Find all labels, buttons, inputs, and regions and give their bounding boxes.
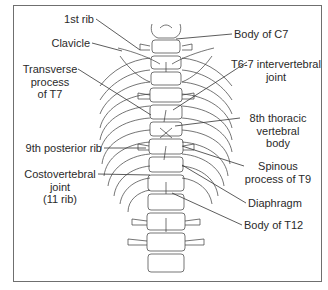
label-line: Clavicle (40, 37, 90, 50)
ribs-right (182, 58, 232, 204)
label-line: 9th posterior rib (18, 142, 102, 155)
label-line: process of T9 (238, 173, 318, 186)
label-ninth-posterior-rib: 9th posterior rib (18, 142, 102, 155)
label-line: of T7 (20, 88, 80, 101)
label-eighth-thoracic-vertebral-body: 8th thoracic vertebral body (244, 112, 312, 150)
label-line: vertebral (244, 125, 312, 138)
label-first-rib: 1st rib (56, 13, 94, 26)
label-line: Body of T12 (244, 219, 303, 232)
label-line: joint (22, 181, 98, 194)
label-line: Diaphragm (248, 197, 302, 210)
label-line: 1st rib (56, 13, 94, 26)
label-line: Transverse (20, 63, 80, 76)
label-line: Spinous (238, 160, 318, 173)
label-t6-7-intervertebral-joint: T6-7 intervertebral joint (226, 58, 326, 83)
label-transverse-process-t7: Transverse process of T7 (20, 63, 80, 101)
label-spinous-process-t9: Spinous process of T9 (238, 160, 318, 185)
ribs-left (100, 58, 150, 212)
label-diaphragm: Diaphragm (248, 197, 302, 210)
label-line: 8th thoracic (244, 112, 312, 125)
label-costovertebral-joint: Costovertebral joint (11 rib) (22, 168, 98, 206)
label-body-of-t12: Body of T12 (244, 219, 303, 232)
label-line: T6-7 intervertebral (226, 58, 326, 71)
label-line: Costovertebral (22, 168, 98, 181)
label-body-of-c7: Body of C7 (234, 28, 288, 41)
label-line: (11 rib) (22, 193, 98, 206)
label-line: process (20, 76, 80, 89)
label-clavicle: Clavicle (40, 37, 90, 50)
label-line: joint (226, 71, 326, 84)
label-line: Body of C7 (234, 28, 288, 41)
label-line: body (244, 137, 312, 150)
